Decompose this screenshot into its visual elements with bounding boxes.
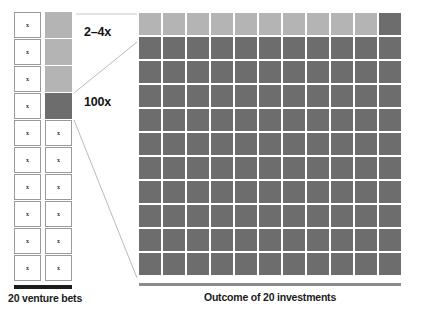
venture-bets-panel: xxxxxxxxxxxxxxxx — [14, 12, 72, 281]
outcome-cell — [187, 181, 209, 203]
venture-bet-cell: x — [45, 174, 72, 200]
outcome-cell — [163, 61, 185, 83]
outcome-cell — [283, 109, 305, 131]
outcome-cell — [379, 37, 401, 59]
outcome-cell — [187, 85, 209, 107]
label-mid-multiplier: 2–4x — [84, 25, 111, 39]
outcome-grid — [139, 13, 401, 275]
outcome-cell — [187, 157, 209, 179]
outcome-cell — [259, 85, 281, 107]
outcome-cell — [355, 37, 377, 59]
outcome-baseline-rule — [139, 283, 401, 286]
outcome-cell — [211, 253, 233, 275]
venture-bet-cell — [45, 12, 72, 38]
outcome-cell — [187, 253, 209, 275]
venture-bet-cell: x — [14, 66, 41, 92]
outcome-cell — [259, 181, 281, 203]
bet-miss-x-icon: x — [15, 49, 40, 55]
outcome-cell — [307, 37, 329, 59]
outcome-cell — [139, 205, 161, 227]
venture-bet-cell: x — [45, 120, 72, 146]
venture-bet-cell: x — [14, 255, 41, 281]
outcome-cell — [163, 37, 185, 59]
outcome-cell — [283, 205, 305, 227]
bet-miss-x-icon: x — [15, 22, 40, 28]
venture-bet-cell: x — [14, 39, 41, 65]
outcome-cell — [259, 13, 281, 35]
outcome-cell — [307, 229, 329, 251]
callout-line-lower-diagonal — [74, 120, 137, 278]
outcome-cell — [139, 85, 161, 107]
outcome-cell — [139, 109, 161, 131]
outcome-cell — [139, 133, 161, 155]
outcome-cell — [379, 205, 401, 227]
venture-bet-cell: x — [14, 93, 41, 119]
outcome-cell — [235, 157, 257, 179]
outcome-cell — [307, 253, 329, 275]
outcome-cell — [355, 133, 377, 155]
label-high-multiplier: 100x — [84, 95, 111, 109]
outcome-cell — [211, 157, 233, 179]
outcome-cell — [307, 181, 329, 203]
bet-miss-x-icon: x — [46, 130, 71, 136]
outcome-cell — [331, 61, 353, 83]
outcome-cell — [139, 61, 161, 83]
outcome-cell — [163, 253, 185, 275]
outcome-cell — [283, 85, 305, 107]
outcome-cell — [139, 13, 161, 35]
outcome-cell — [355, 85, 377, 107]
outcome-cell — [235, 13, 257, 35]
outcome-cell — [235, 109, 257, 131]
bet-miss-x-icon: x — [46, 238, 71, 244]
bet-miss-x-icon: x — [15, 157, 40, 163]
outcome-cell — [235, 229, 257, 251]
outcome-cell — [307, 13, 329, 35]
outcome-cell — [331, 181, 353, 203]
outcome-cell — [307, 85, 329, 107]
outcome-cell — [211, 205, 233, 227]
outcome-cell — [235, 205, 257, 227]
outcome-cell — [259, 157, 281, 179]
outcome-cell — [283, 229, 305, 251]
bet-miss-x-icon: x — [15, 130, 40, 136]
outcome-cell — [331, 157, 353, 179]
outcome-cell — [355, 205, 377, 227]
outcome-cell — [211, 133, 233, 155]
outcome-cell — [379, 133, 401, 155]
outcome-cell — [331, 85, 353, 107]
outcome-cell — [379, 253, 401, 275]
bet-miss-x-icon: x — [15, 103, 40, 109]
outcome-cell — [331, 205, 353, 227]
outcome-cell — [259, 205, 281, 227]
venture-bet-cell: x — [14, 12, 41, 38]
outcome-cell — [379, 229, 401, 251]
outcome-cell — [259, 61, 281, 83]
outcome-cell — [139, 229, 161, 251]
outcome-cell — [307, 157, 329, 179]
bet-miss-x-icon: x — [15, 238, 40, 244]
venture-bet-cell — [45, 93, 72, 119]
outcome-cell — [331, 133, 353, 155]
venture-bets-grid: xxxxxxxxxxxxxxxx — [14, 12, 72, 281]
outcome-cell — [355, 109, 377, 131]
outcome-cell — [187, 61, 209, 83]
bet-miss-x-icon: x — [46, 265, 71, 271]
outcome-cell — [331, 13, 353, 35]
outcome-cell — [163, 133, 185, 155]
outcome-cell — [283, 13, 305, 35]
outcome-cell — [259, 253, 281, 275]
outcome-cell — [139, 157, 161, 179]
outcome-cell — [187, 205, 209, 227]
outcome-cell — [211, 181, 233, 203]
outcome-cell — [283, 133, 305, 155]
outcome-cell — [235, 133, 257, 155]
venture-bets-caption: 20 venture bets — [8, 292, 138, 304]
outcome-cell — [163, 13, 185, 35]
outcome-cell — [211, 229, 233, 251]
outcome-cell — [283, 157, 305, 179]
outcome-cell — [235, 181, 257, 203]
outcome-cell — [307, 109, 329, 131]
bet-miss-x-icon: x — [46, 157, 71, 163]
outcome-cell — [163, 85, 185, 107]
outcome-cell — [307, 133, 329, 155]
